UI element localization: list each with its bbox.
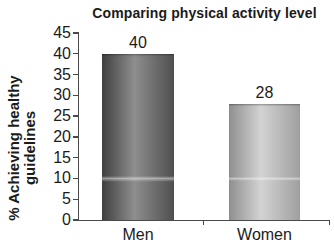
y-axis-tick-label: 20 — [38, 128, 71, 146]
y-axis-tick — [73, 178, 79, 179]
y-axis-tick — [73, 32, 79, 33]
bar-men — [102, 54, 174, 220]
y-axis-tick — [73, 95, 79, 96]
y-axis-tick-label: 0 — [38, 211, 71, 229]
y-axis-tick — [73, 115, 79, 116]
y-axis-tick — [73, 199, 79, 200]
chart-title: Comparing physical activity level — [79, 5, 330, 21]
y-axis-tick — [73, 157, 79, 158]
y-axis-tick-label: 10 — [38, 169, 71, 187]
y-axis-tick-label: 25 — [38, 107, 71, 125]
x-axis-tick-mid — [203, 220, 204, 225]
bar-value-label-men: 40 — [113, 33, 163, 52]
y-axis-tick — [73, 219, 79, 220]
y-axis-tick-label: 5 — [38, 190, 71, 208]
x-tick-label-men: Men — [98, 225, 178, 244]
y-axis-tick — [73, 53, 79, 54]
x-axis-tick-end — [329, 220, 330, 225]
y-axis-tick — [73, 136, 79, 137]
y-axis-line — [78, 32, 79, 221]
x-tick-label-women: Women — [225, 225, 305, 244]
y-axis-tick — [73, 74, 79, 75]
y-axis-tick-label: 30 — [38, 86, 71, 104]
bar-chart: Comparing physical activity level % Achi… — [0, 0, 334, 251]
y-axis-title: % Achieving healthy guidelines — [6, 48, 40, 248]
y-axis-tick-label: 40 — [38, 45, 71, 63]
y-axis-tick-label: 15 — [38, 149, 71, 167]
bar-women — [229, 104, 300, 220]
bar-value-label-women: 28 — [240, 83, 290, 102]
y-axis-tick-label: 35 — [38, 66, 71, 84]
y-axis-tick-label: 45 — [38, 24, 71, 42]
y-axis-title-line1: % Achieving healthy — [6, 48, 22, 248]
y-axis-title-line2: guidelines — [22, 48, 38, 248]
